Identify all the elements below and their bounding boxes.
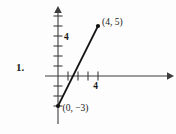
y-axis-arrow-icon (54, 6, 62, 13)
coordinate-graph: 4 4 (4, 5) (0, −3) (0, 0, 176, 134)
x-axis-arrow-icon (167, 72, 174, 80)
data-point-4-5 (96, 24, 100, 28)
point-label-0-neg3: (0, −3) (63, 103, 89, 114)
figure-container: 1. 4 4 (0, 0, 176, 134)
x-tick-label-4: 4 (93, 81, 98, 91)
data-point-0-neg3 (56, 104, 60, 108)
point-label-4-5: (4, 5) (102, 17, 123, 28)
y-tick-label-4: 4 (64, 32, 69, 42)
